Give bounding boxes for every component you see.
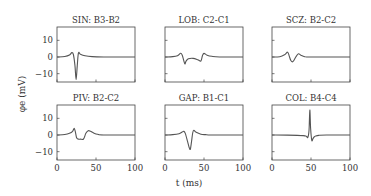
- signal-line: [57, 128, 135, 139]
- signal-line: [272, 110, 350, 141]
- axes-frame: [57, 105, 135, 160]
- panel-title: GAP: B1-C1: [179, 93, 229, 103]
- panel-lob: LOB: C2-C1: [165, 15, 243, 82]
- panel-title: PIV: B2-C2: [73, 93, 119, 103]
- axes-frame: [57, 27, 135, 82]
- signal-line: [57, 52, 135, 79]
- signal-line: [165, 53, 243, 64]
- panels: SIN: B3-B2−10010LOB: C2-C1SCZ: B2-C2PIV:…: [35, 15, 358, 173]
- signal-line: [272, 52, 350, 62]
- panel-piv: PIV: B2-C2−10010050100: [35, 93, 143, 173]
- x-tick-label: 50: [91, 163, 102, 173]
- panel-gap: GAP: B1-C1050100: [162, 93, 251, 173]
- x-tick-label: 0: [269, 163, 274, 173]
- panel-scz: SCZ: B2-C2: [272, 15, 350, 82]
- panel-title: SIN: B3-B2: [72, 15, 120, 25]
- y-tick-label: 10: [42, 35, 53, 45]
- panel-title: COL: B4-C4: [285, 93, 336, 103]
- x-tick-label: 100: [235, 163, 251, 173]
- panel-title: LOB: C2-C1: [178, 15, 229, 25]
- y-tick-label: 0: [48, 52, 53, 62]
- y-tick-label: −10: [35, 69, 53, 79]
- figure-canvas: SIN: B3-B2−10010LOB: C2-C1SCZ: B2-C2PIV:…: [0, 0, 371, 196]
- axes-frame: [165, 105, 243, 160]
- x-tick-label: 0: [162, 163, 167, 173]
- panel-col: COL: B4-C4050100: [269, 93, 358, 173]
- y-axis-label: φe (mV): [17, 76, 27, 113]
- y-tick-label: −10: [35, 147, 53, 157]
- y-tick-label: 10: [42, 113, 53, 123]
- axes-frame: [165, 27, 243, 82]
- x-tick-label: 0: [54, 163, 59, 173]
- axes-frame: [272, 27, 350, 82]
- figure: SIN: B3-B2−10010LOB: C2-C1SCZ: B2-C2PIV:…: [0, 0, 371, 196]
- signal-line: [165, 130, 243, 149]
- x-tick-label: 100: [342, 163, 358, 173]
- x-tick-label: 50: [306, 163, 317, 173]
- x-axis-label: t (ms): [176, 178, 203, 188]
- y-tick-label: 0: [48, 130, 53, 140]
- x-tick-label: 50: [199, 163, 210, 173]
- x-tick-label: 100: [127, 163, 143, 173]
- panel-title: SCZ: B2-C2: [286, 15, 336, 25]
- panel-sin: SIN: B3-B2−10010: [35, 15, 135, 82]
